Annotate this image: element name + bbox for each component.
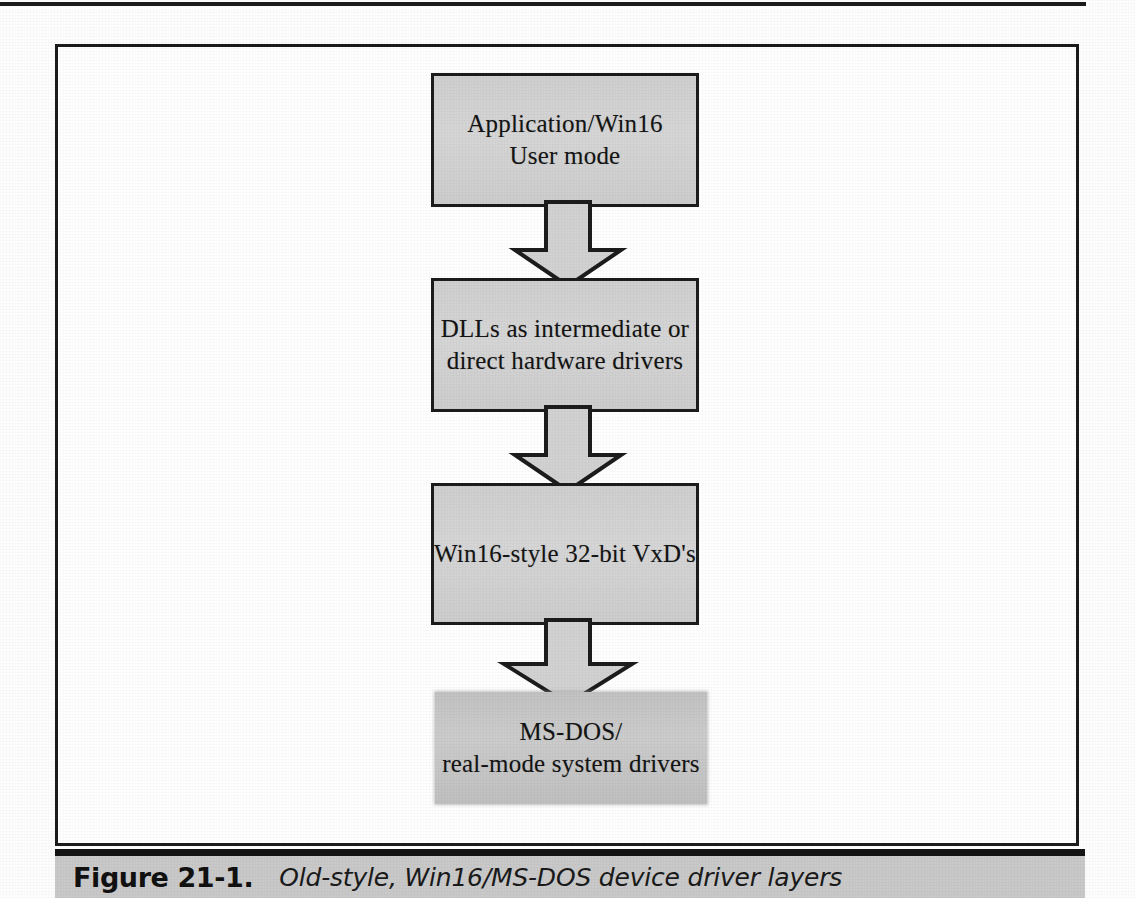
driver-layers-diagram: Application/Win16 User mode DLLs as inte… <box>58 47 1082 849</box>
diagram-node-application-win16: Application/Win16 User mode <box>431 73 699 207</box>
diagram-node-msdos-realmode: MS-DOS/ real-mode system drivers <box>435 692 707 804</box>
diagram-node-vxd: Win16-style 32-bit VxD's <box>431 483 699 625</box>
diagram-node-label: Win16-style 32-bit VxD's <box>434 538 696 570</box>
scanned-page: Application/Win16 User mode DLLs as inte… <box>0 0 1135 898</box>
diagram-node-dlls: DLLs as intermediate or direct hardware … <box>431 278 699 412</box>
block-arrow-down-2 <box>513 407 623 493</box>
figure-frame: Application/Win16 User mode DLLs as inte… <box>55 44 1079 846</box>
diagram-node-label: Application/Win16 User mode <box>467 108 662 172</box>
figure-caption-number: Figure 21-1. <box>73 862 253 893</box>
diagram-node-label: MS-DOS/ real-mode system drivers <box>442 716 700 780</box>
figure-caption-text: Old-style, Win16/MS-DOS device driver la… <box>279 863 842 892</box>
page-top-rule <box>0 2 1086 6</box>
block-arrow-down-1 <box>513 202 623 288</box>
figure-caption-bar: Figure 21-1. Old-style, Win16/MS-DOS dev… <box>55 856 1085 898</box>
diagram-node-label: DLLs as intermediate or direct hardware … <box>441 313 689 377</box>
caption-top-rule <box>55 849 1085 856</box>
